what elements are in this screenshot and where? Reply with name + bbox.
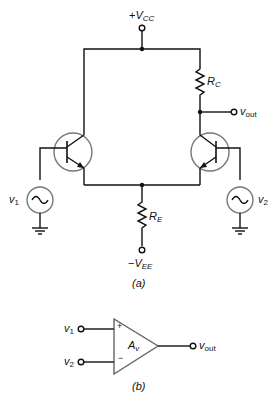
rc-label: RC xyxy=(207,76,221,89)
re-label: RE xyxy=(149,211,162,224)
vcc-label: +VCC xyxy=(129,10,154,23)
vee-terminal xyxy=(139,247,145,253)
gain-label: Av xyxy=(128,340,139,353)
rc-resistor xyxy=(196,66,204,112)
v2-label-b: v2 xyxy=(64,356,74,369)
caption-a: (a) xyxy=(132,278,145,289)
q1-transistor xyxy=(54,133,92,171)
v1-label-b: v1 xyxy=(64,323,74,336)
vout-label-a: vout xyxy=(240,106,257,119)
top-rail xyxy=(84,49,200,135)
plus-sign: + xyxy=(117,322,122,331)
minus-sign: − xyxy=(118,354,123,363)
q2-transistor xyxy=(191,133,229,171)
caption-b: (b) xyxy=(132,381,145,392)
re-resistor xyxy=(138,185,146,246)
vout-label-b: vout xyxy=(199,340,216,353)
vout-terminal xyxy=(231,109,237,115)
vee-label: −VEE xyxy=(128,258,152,271)
vcc-terminal xyxy=(139,25,145,31)
v1-label-a: v1 xyxy=(9,194,19,207)
v2-label-a: v2 xyxy=(258,194,268,207)
